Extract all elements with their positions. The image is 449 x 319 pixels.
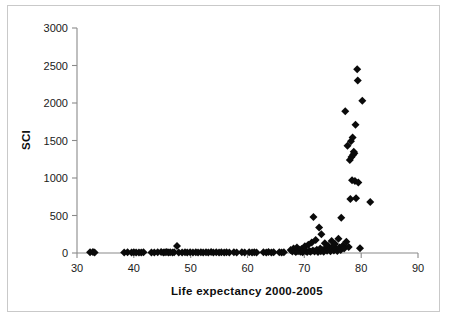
x-tick-label: 30 bbox=[71, 262, 83, 274]
y-tick-label: 0 bbox=[62, 247, 68, 259]
y-axis-title: SCI bbox=[20, 130, 32, 150]
x-tick-label: 90 bbox=[412, 262, 424, 274]
x-tick-label: 60 bbox=[241, 262, 253, 274]
scatter-chart-figure: 0 500 1000 1500 2000 2500 3000 30 40 50 … bbox=[0, 0, 449, 319]
scatter-point bbox=[366, 198, 374, 206]
scatter-point bbox=[358, 97, 366, 105]
scatter-plot-svg: 0 500 1000 1500 2000 2500 3000 30 40 50 … bbox=[0, 0, 449, 319]
scatter-point bbox=[356, 244, 364, 252]
y-tick-label: 2500 bbox=[44, 60, 68, 72]
scatter-point bbox=[317, 230, 325, 238]
scatter-point bbox=[315, 224, 323, 232]
x-axis-title: Life expectancy 2000-2005 bbox=[171, 285, 323, 297]
y-tick-labels: 0 500 1000 1500 2000 2500 3000 bbox=[44, 22, 68, 259]
x-tick-label: 80 bbox=[355, 262, 367, 274]
y-tick-label: 3000 bbox=[44, 22, 68, 34]
x-tick-label: 70 bbox=[298, 262, 310, 274]
data-point-markers bbox=[86, 65, 374, 256]
y-axis-ticks bbox=[72, 28, 77, 253]
scatter-point bbox=[352, 194, 360, 202]
screenshot-root: 0 500 1000 1500 2000 2500 3000 30 40 50 … bbox=[0, 0, 449, 319]
y-tick-label: 1000 bbox=[44, 172, 68, 184]
x-tick-labels: 30 40 50 60 70 80 90 bbox=[71, 262, 424, 274]
scatter-point bbox=[341, 107, 349, 115]
scatter-point bbox=[354, 77, 362, 85]
scatter-point bbox=[309, 213, 317, 221]
x-tick-label: 40 bbox=[128, 262, 140, 274]
x-tick-label: 50 bbox=[185, 262, 197, 274]
scatter-point bbox=[351, 121, 359, 129]
scatter-point bbox=[353, 65, 361, 73]
y-tick-label: 500 bbox=[50, 210, 68, 222]
y-tick-label: 2000 bbox=[44, 97, 68, 109]
y-tick-label: 1500 bbox=[44, 135, 68, 147]
scatter-point bbox=[337, 214, 345, 222]
